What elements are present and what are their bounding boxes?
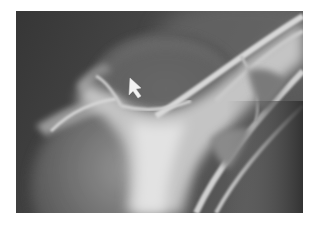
lateral-soft-tissue xyxy=(226,101,303,213)
radiograph-image xyxy=(16,11,303,213)
radiograph-svg xyxy=(16,11,303,213)
